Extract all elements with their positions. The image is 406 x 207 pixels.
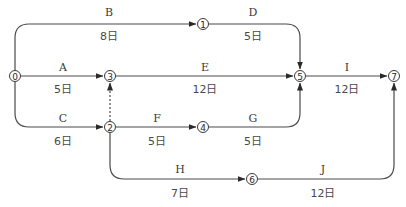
svg-text:0: 0 xyxy=(12,72,18,82)
edge-j xyxy=(258,83,394,179)
activity-c-duration: 6日 xyxy=(54,135,72,148)
svg-text:6: 6 xyxy=(249,175,255,185)
node-1: 1 xyxy=(198,19,209,30)
node-4: 4 xyxy=(198,122,209,133)
activity-g-duration: 5日 xyxy=(244,135,262,148)
activity-b-duration: 8日 xyxy=(100,30,118,43)
node-5: 5 xyxy=(295,71,306,82)
node-0: 0 xyxy=(10,71,21,82)
activity-f-name: F xyxy=(153,112,161,125)
activity-e-duration: 12日 xyxy=(193,83,218,96)
activity-j-name: J xyxy=(320,163,325,176)
svg-text:1: 1 xyxy=(200,20,206,30)
node-7: 7 xyxy=(389,71,400,82)
arrow-network-diagram: B 8日 D 5日 A 5日 E 12日 I 12日 C 6日 F 5日 G 5… xyxy=(0,0,406,207)
svg-text:3: 3 xyxy=(107,72,113,82)
node-3: 3 xyxy=(105,71,116,82)
activity-d-duration: 5日 xyxy=(244,30,262,43)
activity-d-name: D xyxy=(249,6,258,19)
svg-text:5: 5 xyxy=(297,72,303,82)
node-2: 2 xyxy=(105,122,116,133)
node-6: 6 xyxy=(247,174,258,185)
svg-text:7: 7 xyxy=(391,72,397,82)
activity-i-duration: 12日 xyxy=(335,83,360,96)
svg-text:4: 4 xyxy=(200,123,206,133)
activity-h-name: H xyxy=(175,163,185,176)
activity-a-name: A xyxy=(58,61,68,74)
activity-b-name: B xyxy=(105,6,113,19)
activity-c-name: C xyxy=(59,112,67,125)
svg-text:2: 2 xyxy=(107,123,113,133)
activity-i-name: I xyxy=(345,61,349,74)
activity-a-duration: 5日 xyxy=(54,83,72,96)
activity-h-duration: 7日 xyxy=(171,187,189,200)
activity-f-duration: 5日 xyxy=(148,135,166,148)
activity-j-duration: 12日 xyxy=(311,187,336,200)
activity-e-name: E xyxy=(201,61,209,74)
activity-g-name: G xyxy=(249,112,258,125)
